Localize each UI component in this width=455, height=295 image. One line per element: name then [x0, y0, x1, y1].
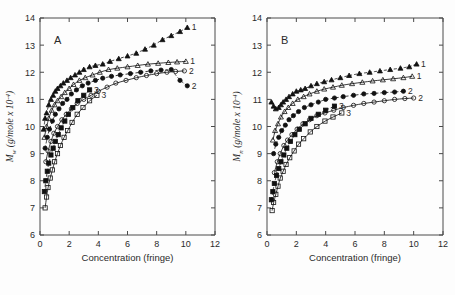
data-point: [303, 122, 307, 126]
y-tick-label: 12: [252, 68, 262, 78]
data-point: [287, 118, 291, 122]
data-point: [303, 86, 308, 91]
curve-label: 1: [417, 71, 422, 81]
y-tick-label: 10: [25, 122, 35, 132]
data-point: [86, 81, 90, 85]
data-point: [293, 133, 297, 137]
data-point: [372, 91, 376, 95]
y-tick-label: 11: [26, 95, 35, 105]
data-point: [332, 96, 336, 100]
data-point: [277, 166, 281, 170]
data-point: [169, 67, 173, 71]
data-point: [351, 93, 355, 97]
data-point: [332, 104, 336, 108]
data-point: [169, 33, 174, 38]
data-point: [296, 109, 300, 113]
data-point: [47, 161, 51, 165]
data-point: [316, 112, 320, 116]
data-point: [63, 119, 67, 123]
fitted-curve: [44, 27, 188, 129]
data-point: [282, 153, 286, 157]
data-point: [297, 127, 301, 131]
data-point: [414, 62, 419, 67]
x-tick-label: 0: [264, 239, 269, 249]
data-point: [109, 74, 113, 78]
data-point: [128, 71, 132, 75]
y-tick-label: 12: [25, 68, 35, 78]
data-point: [340, 111, 344, 115]
data-point: [116, 56, 121, 61]
x-tick-label: 2: [294, 239, 299, 249]
data-point: [76, 99, 80, 103]
x-tick-label: 8: [154, 239, 159, 249]
data-point: [316, 100, 320, 104]
data-point: [283, 123, 287, 127]
x-tick-label: 6: [352, 239, 357, 249]
data-point: [51, 146, 55, 150]
panel-label: A: [54, 34, 62, 46]
data-point: [81, 67, 86, 72]
y-tick-label: 9: [257, 149, 262, 159]
figure-container: 67891011121314024681012Concentration (fr…: [0, 0, 455, 295]
data-point: [42, 189, 46, 193]
y-axis-title: Mw (g/mole x 10-4): [4, 91, 18, 163]
data-point: [66, 112, 70, 116]
data-point: [139, 70, 143, 74]
data-point: [398, 66, 403, 71]
svg-text:Mn (g/mole x 10-4): Mn (g/mole x 10-4): [231, 91, 245, 162]
data-point: [288, 139, 292, 143]
x-axis-title: Concentration (fringe): [309, 252, 401, 263]
data-point: [159, 68, 163, 72]
data-point: [93, 78, 97, 82]
x-tick-label: 4: [323, 239, 328, 249]
y-tick-label: 6: [30, 230, 35, 240]
x-tick-label: 8: [382, 239, 387, 249]
y-tick-label: 7: [30, 203, 35, 213]
curve-label: 2: [192, 81, 197, 91]
panel-label: B: [281, 34, 288, 46]
data-point: [53, 112, 57, 116]
data-point: [50, 119, 54, 123]
curve-label: 2: [408, 86, 413, 96]
y-tick-label: 8: [30, 176, 35, 186]
data-point: [309, 103, 313, 107]
data-point: [143, 47, 148, 52]
x-tick-label: 10: [409, 239, 419, 249]
panel-b-plot: 67891011121314024681012Concentration (fr…: [227, 0, 455, 295]
data-point: [392, 90, 396, 94]
curve-label: 3: [339, 101, 344, 111]
x-tick-label: 12: [438, 239, 448, 249]
y-axis-title: Mn (g/mole x 10-4): [231, 91, 245, 162]
data-point: [82, 93, 86, 97]
curve-label: 2: [189, 66, 194, 76]
panel-a-plot: 67891011121314024681012Concentration (fr…: [0, 0, 227, 295]
curve-label: 3: [346, 108, 351, 118]
data-point: [60, 101, 64, 105]
data-point: [125, 53, 130, 58]
data-point: [87, 88, 91, 92]
y-tick-label: 6: [257, 230, 262, 240]
data-point: [68, 75, 73, 80]
data-point: [185, 84, 189, 88]
curve-label: 2: [418, 93, 423, 103]
data-point: [77, 70, 82, 75]
panel-b: 67891011121314024681012Concentration (fr…: [227, 0, 454, 295]
data-point: [388, 67, 393, 72]
data-point: [46, 102, 51, 107]
data-point: [71, 105, 75, 109]
data-point: [149, 69, 153, 73]
y-tick-label: 8: [257, 176, 262, 186]
data-point: [362, 92, 366, 96]
data-point: [65, 97, 69, 101]
x-tick-label: 6: [125, 239, 130, 249]
y-tick-label: 7: [257, 203, 262, 213]
x-tick-label: 12: [210, 239, 220, 249]
x-tick-label: 2: [67, 239, 72, 249]
data-point: [56, 133, 60, 137]
data-point: [274, 142, 278, 146]
data-point: [53, 139, 57, 143]
curve-label: 1: [192, 22, 197, 32]
data-point: [101, 76, 105, 80]
data-point: [134, 51, 139, 56]
y-tick-label: 10: [252, 122, 262, 132]
